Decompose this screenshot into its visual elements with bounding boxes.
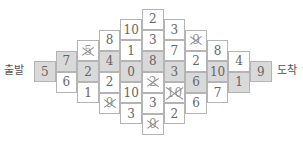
grid-cell-path: 5 [34, 61, 56, 82]
grid-cell-path: 8 [142, 51, 164, 72]
grid-cell: 6 [56, 72, 78, 93]
grid-cell-crossed: 5 [77, 40, 99, 61]
cell-value: 3 [149, 34, 157, 46]
cell-value: 2 [149, 76, 157, 88]
grid-cell: 1 [77, 82, 99, 103]
end-label: 도착 [277, 64, 297, 78]
cell-value: 0 [149, 118, 157, 130]
cell-value: 3 [171, 66, 179, 78]
grid-cell-path: 9 [250, 61, 272, 82]
grid-cell-path: 6 [185, 72, 207, 93]
start-label: 출발 [4, 64, 24, 78]
grid-cell: 6 [185, 93, 207, 114]
grid-cell-path: 4 [99, 51, 121, 72]
cell-value: 2 [149, 13, 157, 25]
grid-cell: 2 [99, 72, 121, 93]
cell-value: 3 [149, 97, 157, 109]
grid-cell: 10 [120, 19, 142, 40]
grid-cell-path: 1 [228, 72, 250, 93]
grid-cell-crossed: 9 [99, 93, 121, 114]
grid-cell-path: 3 [164, 61, 186, 82]
grid-cell: 2 [185, 51, 207, 72]
grid-cell-crossed: 2 [142, 72, 164, 93]
grid-cell: 4 [228, 51, 250, 72]
cell-value: 5 [41, 66, 49, 78]
cell-value: 6 [192, 97, 200, 109]
cell-value: 3 [127, 108, 135, 120]
cell-value: 1 [235, 76, 243, 88]
grid-cell: 1 [120, 40, 142, 61]
grid-cell: 7 [207, 82, 229, 103]
grid-cell-path: 0 [120, 61, 142, 82]
cell-value: 8 [106, 34, 114, 46]
grid-cell-crossed: 0 [142, 114, 164, 135]
cell-value: 1 [84, 87, 92, 99]
cell-value: 8 [149, 55, 157, 67]
cell-value: 6 [63, 76, 71, 88]
cell-value: 1 [127, 45, 135, 57]
cell-value: 9 [257, 66, 265, 78]
cell-value: 7 [214, 87, 222, 99]
grid-cell: 2 [142, 9, 164, 30]
cell-value: 4 [235, 55, 243, 67]
cell-value: 6 [192, 76, 200, 88]
cell-value: 10 [124, 24, 139, 36]
grid-cell: 3 [120, 103, 142, 124]
grid-cell-path: 10 [207, 61, 229, 82]
grid-cell-path: 2 [77, 61, 99, 82]
cell-value: 2 [84, 66, 92, 78]
cell-value: 2 [106, 76, 114, 88]
cell-value: 9 [192, 34, 200, 46]
cell-value: 9 [106, 97, 114, 109]
grid-cell: 3 [142, 30, 164, 51]
cell-value: 8 [214, 45, 222, 57]
cell-value: 0 [127, 66, 135, 78]
grid-cell: 8 [207, 40, 229, 61]
grid-cell: 7 [164, 40, 186, 61]
grid-cell: 10 [120, 82, 142, 103]
cell-value: 5 [84, 45, 92, 57]
cell-value: 7 [171, 45, 179, 57]
cell-value: 10 [210, 66, 225, 78]
cell-value: 3 [171, 24, 179, 36]
cell-value: 2 [192, 55, 200, 67]
cell-value: 10 [167, 87, 182, 99]
grid-cell: 8 [99, 30, 121, 51]
cell-value: 2 [171, 108, 179, 120]
cell-value: 4 [106, 55, 114, 67]
grid-cell-path: 7 [56, 51, 78, 72]
grid-cell: 3 [142, 93, 164, 114]
grid-cell-crossed: 9 [185, 30, 207, 51]
grid-cell: 2 [164, 103, 186, 124]
grid-cell: 3 [164, 19, 186, 40]
cell-value: 10 [124, 87, 139, 99]
grid-cell-crossed: 10 [164, 82, 186, 103]
cell-value: 7 [63, 55, 71, 67]
